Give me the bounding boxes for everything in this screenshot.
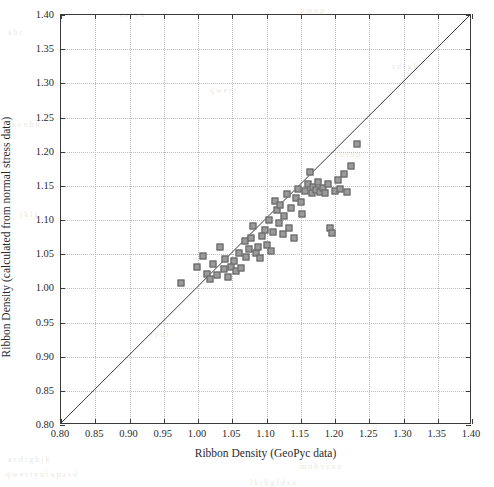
y-axis-tick: [60, 323, 65, 324]
y-tick-label: 0.80: [36, 419, 54, 430]
data-point: [297, 199, 304, 206]
y-tick-label: 1.25: [36, 111, 54, 122]
y-axis-tick-right: [466, 254, 471, 255]
x-axis-tick-top: [198, 14, 199, 19]
data-point: [322, 190, 329, 197]
gridline-vertical: [438, 15, 439, 423]
y-axis-tick-right: [466, 49, 471, 50]
y-axis-tick: [60, 152, 65, 153]
y-tick-label: 1.00: [36, 282, 54, 293]
data-point: [242, 253, 249, 260]
x-axis-tick-top: [164, 14, 165, 19]
y-axis-tick-right: [466, 391, 471, 392]
x-tick-label: 1.05: [222, 428, 240, 439]
y-axis-tick-right: [466, 288, 471, 289]
x-tick-label: 1.15: [291, 428, 309, 439]
gridline-horizontal: [61, 391, 470, 392]
scan-artifact-text: q w e r t y u i o p a s d: [6, 470, 77, 479]
y-axis-tick-right: [466, 83, 471, 84]
data-point: [290, 235, 297, 242]
x-axis-tick-top: [472, 14, 473, 19]
y-tick-label: 1.35: [36, 43, 54, 54]
x-tick-label: 0.80: [51, 428, 69, 439]
x-axis-tick-top: [130, 14, 131, 19]
data-point: [230, 258, 237, 265]
data-point: [329, 229, 336, 236]
gridline-horizontal: [61, 118, 470, 119]
data-point: [275, 220, 282, 227]
x-axis-tick-top: [335, 14, 336, 19]
data-point: [200, 253, 207, 260]
y-tick-label: 1.05: [36, 248, 54, 259]
y-axis-title: Ribbon Density (calculated from normal s…: [0, 32, 18, 442]
data-point: [266, 217, 273, 224]
gridline-horizontal: [61, 254, 470, 255]
y-axis-tick: [60, 15, 65, 16]
y-tick-label: 1.15: [36, 179, 54, 190]
gridline-vertical: [130, 15, 131, 423]
x-tick-label: 1.20: [325, 428, 343, 439]
x-axis-tick-top: [232, 14, 233, 19]
data-point: [284, 191, 291, 198]
data-point: [256, 255, 263, 262]
y-axis-tick-right: [466, 323, 471, 324]
x-axis-tick: [267, 419, 268, 424]
data-point: [216, 244, 223, 251]
scan-artifact-text: m n b v c x z: [300, 462, 341, 471]
y-tick-label: 1.30: [36, 77, 54, 88]
y-axis-tick-right: [466, 425, 471, 426]
data-point: [340, 171, 347, 178]
y-axis-tick: [60, 254, 65, 255]
y-axis-tick: [60, 357, 65, 358]
data-point: [270, 229, 277, 236]
y-axis-tick: [60, 186, 65, 187]
x-axis-tick: [438, 419, 439, 424]
gridline-horizontal: [61, 49, 470, 50]
y-axis-tick-right: [466, 220, 471, 221]
gridline-vertical: [198, 15, 199, 423]
data-point: [279, 231, 286, 238]
data-point: [210, 261, 217, 268]
gridline-vertical: [164, 15, 165, 423]
data-point: [225, 274, 232, 281]
x-tick-label: 0.90: [119, 428, 137, 439]
x-axis-tick-top: [404, 14, 405, 19]
x-tick-label: 1.10: [256, 428, 274, 439]
scan-artifact-text: a s d f g h j k: [8, 455, 50, 464]
x-axis-tick: [404, 419, 405, 424]
y-axis-tick: [60, 391, 65, 392]
data-point: [262, 226, 269, 233]
x-tick-label: 0.85: [85, 428, 103, 439]
data-point: [344, 188, 351, 195]
x-tick-label: 1.40: [462, 428, 480, 439]
x-axis-tick-top: [438, 14, 439, 19]
x-axis-title: Ribbon Density (GeoPyc data): [60, 447, 471, 459]
y-tick-label: 1.10: [36, 214, 54, 225]
gridline-horizontal: [61, 323, 470, 324]
data-point: [249, 223, 256, 230]
gridline-horizontal: [61, 357, 470, 358]
y-axis-tick: [60, 425, 65, 426]
x-axis-tick: [472, 419, 473, 424]
y-tick-label: 0.85: [36, 384, 54, 395]
gridline-vertical: [232, 15, 233, 423]
x-axis-tick: [164, 419, 165, 424]
data-point: [267, 247, 274, 254]
plot-area: [60, 14, 471, 424]
data-point: [193, 264, 200, 271]
y-axis-tick-right: [466, 186, 471, 187]
scan-artifact-text: l k j h g f d s a: [250, 478, 296, 487]
y-tick-label: 0.90: [36, 350, 54, 361]
y-axis-tick: [60, 220, 65, 221]
data-point: [222, 255, 229, 262]
x-axis-tick: [369, 419, 370, 424]
x-axis-tick: [61, 419, 62, 424]
data-point: [306, 169, 313, 176]
x-tick-label: 1.35: [428, 428, 446, 439]
x-axis-tick: [301, 419, 302, 424]
gridline-vertical: [404, 15, 405, 423]
data-point: [348, 163, 355, 170]
data-point: [255, 244, 262, 251]
gridline-horizontal: [61, 186, 470, 187]
